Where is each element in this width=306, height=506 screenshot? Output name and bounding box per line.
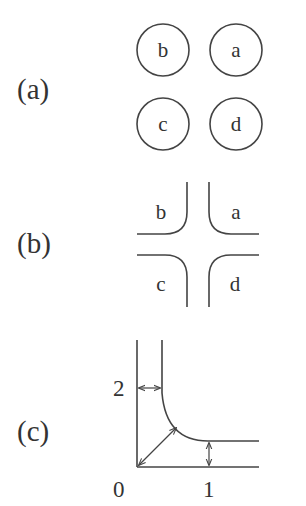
panel-c-label: (c) — [17, 415, 49, 448]
region-d-label: d — [230, 272, 241, 296]
panel-a-label: (a) — [17, 73, 49, 106]
node-a: a — [210, 24, 262, 76]
boundary-curve — [162, 340, 259, 441]
node-b-label: b — [158, 38, 169, 62]
origin-label-0: 0 — [113, 477, 125, 502]
panel-c: (c) 2 0 1 — [17, 340, 259, 502]
panel-a: (a) b a c d — [17, 24, 262, 150]
node-c-label: c — [158, 112, 167, 136]
diagram-canvas: (a) b a c d (b) b a c d (c) — [0, 0, 306, 506]
panel-b-label: (b) — [17, 227, 51, 260]
region-b-label: b — [156, 200, 167, 224]
node-d: d — [210, 98, 262, 150]
node-d-label: d — [231, 112, 242, 136]
x-tick-label-1: 1 — [203, 477, 215, 502]
node-a-label: a — [231, 38, 241, 62]
region-c-label: c — [156, 272, 165, 296]
node-c: c — [137, 98, 189, 150]
node-b: b — [137, 24, 189, 76]
region-a-label: a — [231, 200, 241, 224]
panel-b: (b) b a c d — [17, 182, 259, 307]
diagonal-radius-arrow — [139, 428, 176, 465]
y-tick-label-2: 2 — [113, 376, 125, 401]
